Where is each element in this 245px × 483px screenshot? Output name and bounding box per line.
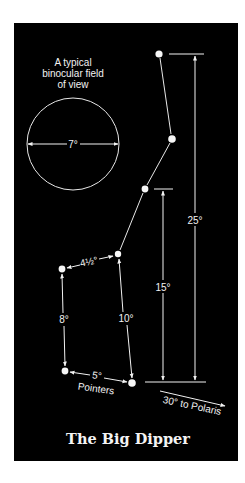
line-star1-star2	[160, 58, 171, 134]
span-15-marker: 15°	[154, 189, 173, 380]
span-25-marker: 25°	[169, 54, 204, 380]
binocular-field-circle: 7°	[27, 98, 119, 190]
right-side-arrow: 10°	[118, 259, 133, 378]
polaris-direction: 30° to Polaris	[160, 391, 225, 417]
span-25-label: 25°	[187, 215, 202, 226]
pointers-arrow: 5° Pointers	[70, 369, 127, 396]
star-5	[59, 266, 66, 273]
diameter-label: 7°	[68, 139, 78, 150]
star-3	[142, 186, 149, 193]
stars	[59, 50, 176, 386]
pointers-caption: Pointers	[77, 381, 115, 397]
caption-line-1: A typical	[54, 57, 91, 68]
left-side-arrow: 8°	[59, 274, 69, 366]
line-star3-star4	[120, 193, 143, 250]
binocular-caption: A typical binocular field of view	[42, 57, 104, 90]
right-side-label: 10°	[118, 313, 133, 324]
caption-line-2: binocular field	[42, 68, 104, 79]
gap-arrow: 4½°	[67, 254, 113, 268]
gap-label: 4½°	[79, 254, 99, 268]
polaris-label: 30° to Polaris	[162, 394, 223, 417]
star-6	[62, 368, 69, 375]
span-15-label: 15°	[155, 282, 170, 293]
left-side-label: 8°	[59, 314, 69, 325]
star-1	[155, 50, 162, 57]
pointers-distance-label: 5°	[92, 369, 103, 381]
line-star2-star3	[147, 143, 170, 185]
big-dipper-diagram: A typical binocular field of view 7° 4½°…	[0, 0, 245, 483]
figure-title: The Big Dipper	[66, 430, 190, 447]
star-2	[168, 135, 176, 143]
caption-line-3: of view	[57, 79, 89, 90]
star-7	[128, 379, 136, 387]
star-4	[115, 251, 121, 257]
